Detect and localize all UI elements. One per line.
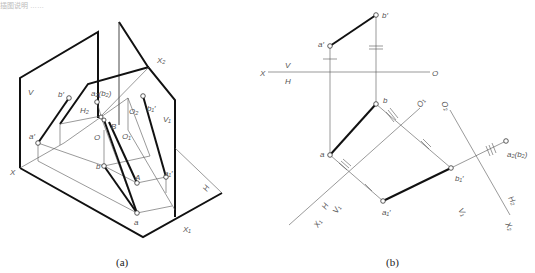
- points-b: [328, 13, 509, 204]
- axes: [268, 72, 510, 225]
- label-a2b2: a₂(b₂): [507, 150, 528, 159]
- label-b1-prime: b₁′: [455, 174, 464, 183]
- label-a-prime: a′: [318, 40, 324, 49]
- label-H2: H₂: [506, 195, 518, 207]
- label-V1-lower: V₁: [331, 203, 343, 215]
- label-O: O: [432, 69, 438, 78]
- label-X: X: [259, 69, 266, 78]
- label-b: b: [383, 96, 388, 105]
- true-length-lines: [330, 15, 451, 201]
- label-a: a: [320, 150, 325, 159]
- label-X1: X₁: [311, 217, 323, 230]
- label-X2: X₂: [503, 220, 515, 233]
- label-a1-prime: a₁′: [382, 208, 391, 217]
- tick-marks: [323, 46, 496, 191]
- label-V: V: [285, 61, 291, 70]
- figure-b-orthographic: X V H O a′ b′ a b O₁ O₂ a₂(b₂) b₁′ a₁′ X…: [0, 0, 535, 273]
- label-H-lower: H: [320, 201, 331, 211]
- caption-b: (b): [386, 256, 399, 268]
- label-b-prime: b′: [382, 11, 388, 20]
- label-O1: O₁: [415, 97, 427, 109]
- label-V1-right: V₁: [456, 207, 468, 219]
- caption-a: (a): [116, 256, 128, 268]
- label-H: H: [285, 77, 291, 86]
- projectors: [330, 15, 506, 201]
